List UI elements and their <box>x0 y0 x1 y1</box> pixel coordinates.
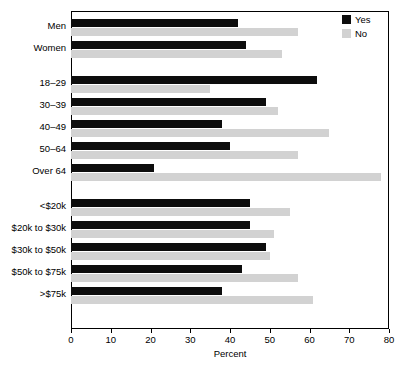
chart-legend: YesNo <box>342 13 400 41</box>
bar-yes <box>71 120 222 128</box>
y-axis-label: Men <box>0 21 66 31</box>
x-axis-tick <box>230 329 231 333</box>
x-axis-tick-label: 10 <box>96 334 126 345</box>
bar-no <box>71 28 298 36</box>
x-axis-tick-label: 30 <box>175 334 205 345</box>
bar-no <box>71 274 298 282</box>
bar-group <box>71 242 389 264</box>
legend-item: Yes <box>342 13 400 26</box>
bar-group <box>71 40 389 62</box>
x-axis-tick <box>190 329 191 333</box>
x-axis-tick <box>310 329 311 333</box>
y-axis-label: Women <box>0 43 66 53</box>
x-axis-tick-label: 20 <box>136 334 166 345</box>
x-axis-tick <box>71 329 72 333</box>
bar-yes <box>71 76 317 84</box>
bar-no <box>71 252 270 260</box>
bar-yes <box>71 199 250 207</box>
y-axis-label: <$20k <box>0 201 66 211</box>
x-axis-tick-label: 50 <box>255 334 285 345</box>
bar-no <box>71 107 278 115</box>
x-axis-tick-label: 40 <box>215 334 245 345</box>
bar-yes <box>71 164 154 172</box>
y-axis-label: 18–29 <box>0 78 66 88</box>
legend-swatch-yes <box>342 15 351 24</box>
bar-group <box>71 264 389 286</box>
y-axis-label: 30–39 <box>0 100 66 110</box>
bar-no <box>71 173 381 181</box>
y-axis-label: $20k to $30k <box>0 223 66 233</box>
y-axis-label: 40–49 <box>0 122 66 132</box>
bar-chart: MenWomen18–2930–3940–4950–64Over 64<$20k… <box>0 0 414 367</box>
bar-yes <box>71 19 238 27</box>
x-axis-tick <box>151 329 152 333</box>
legend-swatch-no <box>342 29 351 38</box>
bar-no <box>71 50 282 58</box>
bar-yes <box>71 142 230 150</box>
bar-yes <box>71 243 266 251</box>
bar-group <box>71 163 389 185</box>
bar-group <box>71 286 389 308</box>
y-axis-label: Over 64 <box>0 166 66 176</box>
bar-no <box>71 208 290 216</box>
bar-no <box>71 129 329 137</box>
x-axis-tick <box>389 329 390 333</box>
legend-label: Yes <box>355 15 371 25</box>
bar-group <box>71 220 389 242</box>
x-axis-tick <box>349 329 350 333</box>
bar-group <box>71 75 389 97</box>
x-axis-tick-label: 60 <box>295 334 325 345</box>
bar-no <box>71 151 298 159</box>
bar-yes <box>71 41 246 49</box>
bar-no <box>71 230 274 238</box>
bar-yes <box>71 265 242 273</box>
x-axis-tick-label: 0 <box>56 334 86 345</box>
y-axis-label: $50k to $75k <box>0 267 66 277</box>
legend-item: No <box>342 27 400 40</box>
bar-yes <box>71 98 266 106</box>
y-axis-label: 50–64 <box>0 144 66 154</box>
x-axis-tick <box>270 329 271 333</box>
bar-yes <box>71 287 222 295</box>
bar-yes <box>71 221 250 229</box>
bar-group <box>71 198 389 220</box>
bar-group <box>71 97 389 119</box>
y-axis-label: >$75k <box>0 289 66 299</box>
x-axis-tick <box>111 329 112 333</box>
bar-no <box>71 296 313 304</box>
bar-group <box>71 141 389 163</box>
legend-label: No <box>355 29 367 39</box>
bar-group <box>71 119 389 141</box>
y-axis-label: $30k to $50k <box>0 245 66 255</box>
x-axis-tick-label: 80 <box>374 334 404 345</box>
x-axis-title: Percent <box>71 348 389 359</box>
bar-no <box>71 85 210 93</box>
x-axis-tick-label: 70 <box>334 334 364 345</box>
